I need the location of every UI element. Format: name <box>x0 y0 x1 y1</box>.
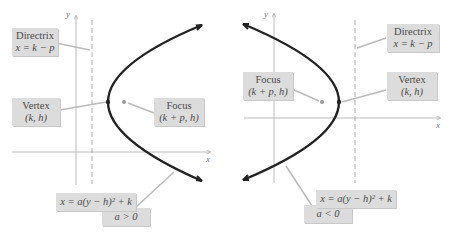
right-x-axis-label: x <box>436 120 440 130</box>
left-focus-coords: (k + p, h) <box>157 112 201 124</box>
right-focus-title: Focus <box>246 74 290 86</box>
left-directrix-equation: x = k − p <box>15 42 55 54</box>
right-focus-label: Focus (k + p, h) <box>243 72 293 100</box>
right-vertex-point <box>337 100 341 104</box>
right-vertex-title: Vertex <box>390 74 434 86</box>
right-equation: x = a(y − h)² + k <box>320 193 392 204</box>
right-focus-point <box>320 100 324 104</box>
right-directrix-label: Directrix x = k − p <box>387 24 439 52</box>
right-vertex-coords: (k, h) <box>390 86 434 98</box>
left-x-axis-label: x <box>206 154 210 164</box>
right-directrix-title: Directrix <box>390 26 436 38</box>
right-focus-coords: (k + p, h) <box>246 86 290 98</box>
right-condition: a < 0 <box>317 208 340 219</box>
right-y-axis-label: y <box>264 9 268 19</box>
right-vertex-label: Vertex (k, h) <box>387 72 437 100</box>
left-focus-title: Focus <box>157 100 201 112</box>
left-directrix-label: Directrix x = k − p <box>12 28 58 56</box>
right-equation-label: x = a(y − h)² + k <box>316 190 396 208</box>
right-parabola-curve <box>243 24 339 180</box>
left-vertex-coords: (k, h) <box>15 112 57 124</box>
left-vertex-label: Vertex (k, h) <box>12 98 60 126</box>
left-focus-label: Focus (k + p, h) <box>154 98 204 126</box>
left-equation: x = a(y − h)² + k <box>60 196 132 207</box>
left-vertex-point <box>106 100 110 104</box>
right-directrix-equation: x = k − p <box>390 38 436 50</box>
left-vertex-title: Vertex <box>15 100 57 112</box>
left-focus-point <box>122 100 126 104</box>
left-directrix-title: Directrix <box>15 30 55 42</box>
left-y-axis-label: y <box>66 9 70 19</box>
left-equation-label: x = a(y − h)² + k <box>56 193 136 211</box>
left-condition: a > 0 <box>115 211 138 222</box>
